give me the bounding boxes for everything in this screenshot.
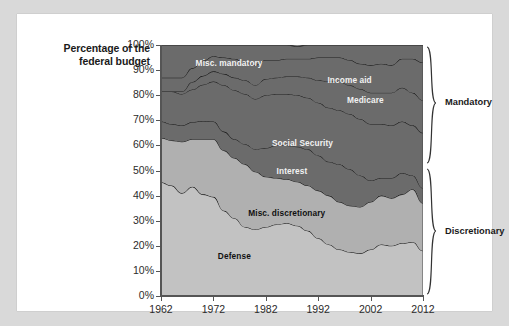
x-tick-label: 1962 — [141, 303, 181, 315]
x-tick-mark — [266, 296, 267, 301]
y-tick-label: 90% — [116, 63, 154, 75]
x-tick-mark — [161, 296, 162, 301]
y-tick-label: 40% — [116, 189, 154, 201]
x-axis-line — [160, 295, 424, 297]
screenshot-root: Percentage of the federal budget 0%10%20… — [0, 0, 509, 326]
y-tick-label: 0% — [116, 289, 154, 301]
x-tick-mark — [423, 296, 424, 301]
y-tick-label: 10% — [116, 264, 154, 276]
group-brace-mandatory — [425, 45, 441, 296]
y-tick-label: 50% — [116, 164, 154, 176]
y-tick-label: 100% — [116, 38, 154, 50]
y-tick-label: 20% — [116, 239, 154, 251]
band-label-medicare: Medicare — [347, 95, 384, 105]
y-tick-label: 60% — [116, 138, 154, 150]
x-tick-mark — [371, 296, 372, 301]
x-tick-label: 1982 — [246, 303, 286, 315]
chart-card: Percentage of the federal budget 0%10%20… — [17, 14, 492, 311]
y-axis-line — [160, 45, 162, 296]
x-tick-mark — [318, 296, 319, 301]
band-label-defense: Defense — [218, 251, 251, 261]
band-label-misc-discretionary: Misc. discretionary — [248, 208, 325, 218]
group-label-mandatory: Mandatory — [445, 97, 492, 107]
band-label-interest: Interest — [277, 166, 308, 176]
y-tick-label: 30% — [116, 214, 154, 226]
x-tick-label: 2002 — [351, 303, 391, 315]
y-tick-label: 70% — [116, 113, 154, 125]
group-label-discretionary: Discretionary — [445, 226, 504, 236]
x-tick-label: 2012 — [403, 303, 443, 315]
x-tick-label: 1992 — [298, 303, 338, 315]
band-label-misc-mandatory: Misc. mandatory — [196, 58, 263, 68]
x-tick-mark — [213, 296, 214, 301]
y-tick-label: 80% — [116, 88, 154, 100]
band-label-social-security: Social Security — [272, 138, 333, 148]
band-label-income-aid: Income aid — [327, 75, 371, 85]
x-tick-label: 1972 — [193, 303, 233, 315]
